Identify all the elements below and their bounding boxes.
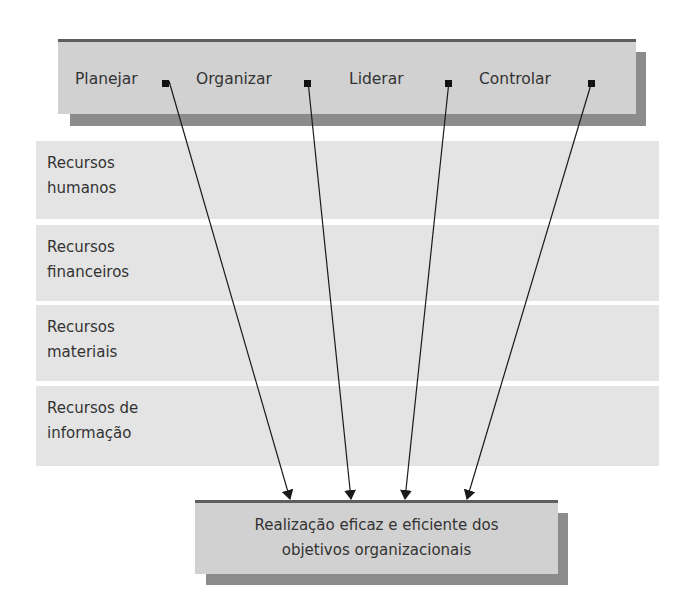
goal-box: Realização eficaz e eficiente dos objeti… <box>195 500 558 574</box>
marker-controlar <box>588 80 595 87</box>
management-functions-box: Planejar Organizar Liderar Controlar <box>58 39 636 114</box>
resource-label: Recursos humanos <box>47 151 116 201</box>
function-organizar: Organizar <box>196 70 272 88</box>
goal-line-1: Realização eficaz e eficiente dos <box>195 513 558 538</box>
marker-organizar <box>304 80 311 87</box>
marker-planejar <box>162 80 169 87</box>
marker-liderar <box>445 80 452 87</box>
resource-label: Recursos financeiros <box>47 235 129 285</box>
goal-text: Realização eficaz e eficiente dos objeti… <box>195 513 558 563</box>
resource-label: Recursos de informação <box>47 396 138 446</box>
resource-band-material: Recursos materiais <box>36 305 659 381</box>
resource-band-information: Recursos de informação <box>36 386 659 466</box>
function-liderar: Liderar <box>349 70 404 88</box>
resource-band-human: Recursos humanos <box>36 141 659 219</box>
function-planejar: Planejar <box>75 70 138 88</box>
resource-label: Recursos materiais <box>47 315 117 365</box>
resource-band-financial: Recursos financeiros <box>36 225 659 301</box>
function-controlar: Controlar <box>479 70 551 88</box>
goal-line-2: objetivos organizacionais <box>195 538 558 563</box>
